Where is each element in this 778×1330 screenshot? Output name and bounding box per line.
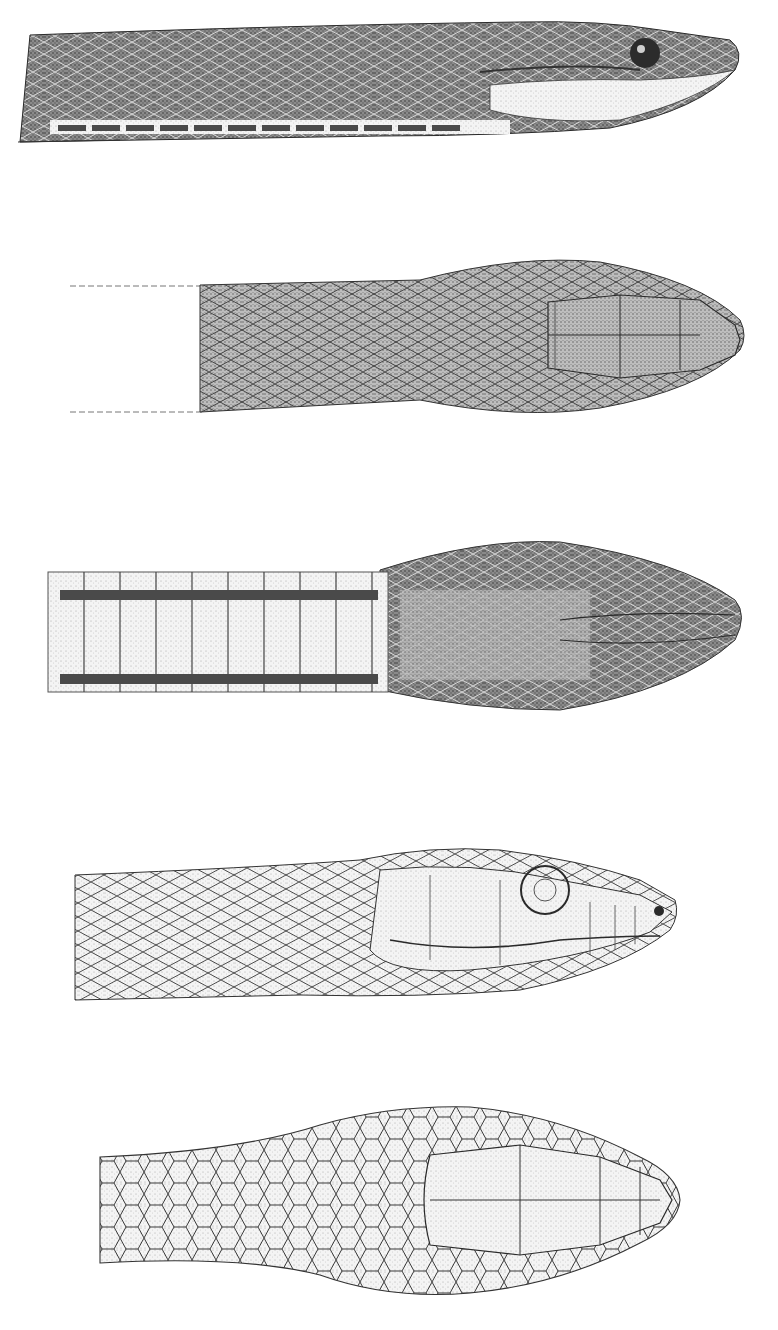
figure-lateral-shaded	[0, 0, 778, 160]
figure-lateral-outline	[0, 840, 778, 1010]
figure-ventral-shaded	[0, 530, 778, 730]
figure-dorsal-outline	[0, 1095, 778, 1315]
nostril-icon	[654, 906, 664, 916]
illustration-plate	[0, 0, 778, 1330]
eye-icon	[630, 38, 660, 68]
figure-dorsal-shaded	[0, 240, 778, 440]
